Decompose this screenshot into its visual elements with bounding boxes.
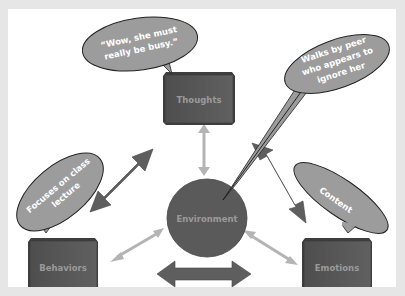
environment-label: Environment	[176, 214, 237, 224]
emotions-node: Emotions	[302, 238, 372, 288]
emotions-label: Emotions	[315, 263, 359, 273]
bottom-margin	[0, 287, 405, 296]
thoughts-node: Thoughts	[163, 72, 235, 125]
cognitive-triangle-diagram: Environment Walks by peer who appears to…	[0, 0, 405, 296]
thoughts-environment-arrow	[198, 124, 210, 176]
behaviors-environment-arrow	[110, 228, 164, 262]
behaviors-emotions-arrow	[157, 261, 251, 287]
emotions-environment-arrow	[243, 230, 298, 265]
behaviors-label: Behaviors	[39, 263, 87, 273]
behavior-bubble: Focuses on class lecture	[3, 139, 116, 246]
behaviors-node: Behaviors	[28, 238, 98, 288]
emotion-bubble: Content	[285, 151, 397, 245]
thoughts-label: Thoughts	[177, 95, 222, 105]
environment-node: Environment	[167, 179, 247, 257]
thoughts-emotions-arrow	[252, 143, 306, 223]
thought-quote-bubble: “Wow, she must really be busy.”	[79, 10, 201, 78]
